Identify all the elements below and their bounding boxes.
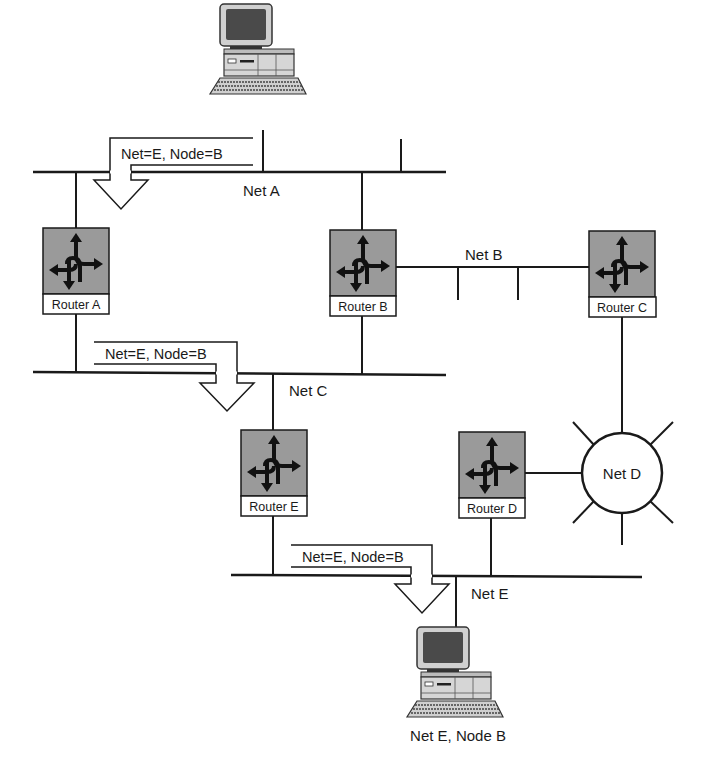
packet-arrow-2: Net=E, Node=B	[94, 342, 254, 411]
router-a: Router A	[43, 228, 109, 314]
net-e-label: Net E	[471, 585, 509, 602]
router-icon	[589, 231, 655, 297]
router-c-label: Router C	[597, 301, 647, 315]
net-c-label: Net C	[289, 382, 328, 399]
net-e-line	[231, 575, 642, 577]
packet-arrow-1: Net=E, Node=B	[94, 138, 253, 223]
net-c-line	[33, 372, 446, 375]
router-a-label: Router A	[52, 298, 101, 312]
net-d-label: Net D	[603, 465, 642, 482]
source-computer-icon	[210, 4, 306, 94]
router-e: Router E	[241, 430, 307, 516]
router-e-label: Router E	[249, 500, 298, 514]
packet-label-3: Net=E, Node=B	[302, 549, 404, 565]
router-b-label: Router B	[338, 300, 387, 314]
dest-host-label: Net E, Node B	[410, 727, 506, 744]
router-b: Router B	[330, 230, 396, 316]
router-c: Router C	[589, 231, 656, 317]
packet-label-1: Net=E, Node=B	[121, 146, 223, 162]
net-a-label: Net A	[243, 182, 280, 199]
router-icon	[241, 430, 307, 496]
router-icon	[330, 230, 396, 296]
network-diagram: Net A Net=E, Node=B Router A Router B Ne…	[0, 0, 709, 768]
net-d-ring: Net D	[573, 422, 673, 545]
router-icon	[43, 228, 109, 294]
router-d-label: Router D	[467, 502, 517, 516]
packet-arrow-3: Net=E, Node=B	[291, 545, 449, 613]
router-d: Router D	[459, 432, 525, 518]
packet-label-2: Net=E, Node=B	[105, 346, 207, 362]
dest-computer-icon	[407, 627, 503, 717]
router-icon	[459, 432, 525, 498]
net-b-label: Net B	[465, 246, 503, 263]
